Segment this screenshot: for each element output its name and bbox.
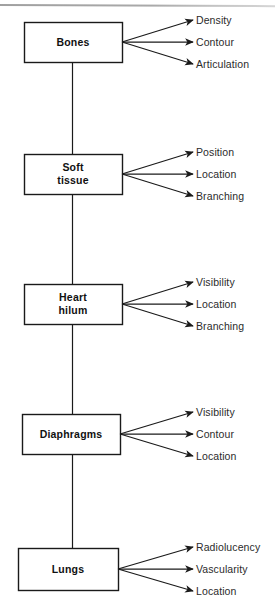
- node-label-soft-tissue: Soft tissue: [24, 161, 122, 187]
- arrow-heart-hilum-2: [122, 304, 193, 326]
- arrow-lungs-2: [118, 569, 193, 591]
- node-label-lungs: Lungs: [18, 563, 118, 576]
- arrow-soft-tissue-0: [122, 152, 193, 174]
- attribute-arrows: [118, 20, 193, 591]
- attribute-label-lungs-1[interactable]: Vascularity: [196, 563, 248, 575]
- arrow-bones-0: [122, 20, 193, 42]
- attribute-label-bones-0[interactable]: Density: [196, 14, 232, 26]
- attribute-label-diaphragms-2[interactable]: Location: [196, 450, 237, 462]
- attribute-label-diaphragms-0[interactable]: Visibility: [196, 406, 235, 418]
- attribute-label-bones-2[interactable]: Articulation: [196, 58, 249, 70]
- node-label-diaphragms: Diaphragms: [22, 428, 120, 441]
- attribute-label-soft-tissue-1[interactable]: Location: [196, 168, 237, 180]
- attribute-label-diaphragms-1[interactable]: Contour: [196, 428, 234, 440]
- diagram-canvas: BonesSoft tissueHeart hilumDiaphragmsLun…: [0, 0, 275, 604]
- arrow-diaphragms-2: [120, 434, 193, 456]
- arrow-bones-2: [122, 42, 193, 64]
- attribute-label-bones-1[interactable]: Contour: [196, 36, 234, 48]
- node-label-bones: Bones: [24, 36, 122, 49]
- arrow-lungs-0: [118, 547, 193, 569]
- attribute-label-heart-hilum-0[interactable]: Visibility: [196, 276, 235, 288]
- attribute-label-soft-tissue-0[interactable]: Position: [196, 146, 234, 158]
- attribute-label-lungs-2[interactable]: Location: [196, 585, 237, 597]
- arrow-heart-hilum-0: [122, 282, 193, 304]
- arrow-diaphragms-0: [120, 412, 193, 434]
- arrow-soft-tissue-2: [122, 174, 193, 196]
- node-label-heart-hilum: Heart hilum: [24, 291, 122, 317]
- attribute-label-soft-tissue-2[interactable]: Branching: [196, 190, 244, 202]
- attribute-label-lungs-0[interactable]: Radiolucency: [196, 541, 260, 553]
- attribute-label-heart-hilum-2[interactable]: Branching: [196, 320, 244, 332]
- attribute-label-heart-hilum-1[interactable]: Location: [196, 298, 237, 310]
